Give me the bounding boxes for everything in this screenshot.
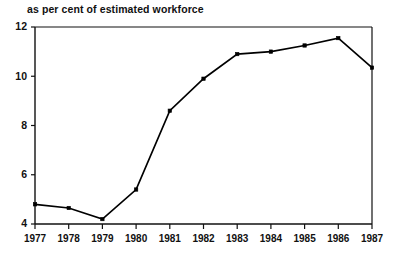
y-axis-labels: 4681012 [15, 20, 27, 229]
x-tick-label: 1983 [226, 233, 249, 244]
data-point [168, 109, 171, 112]
data-point [33, 203, 36, 206]
data-point [337, 36, 340, 39]
x-tick-label: 1979 [91, 233, 114, 244]
data-series-line [35, 38, 372, 219]
data-point [134, 188, 137, 191]
plot-frame [35, 27, 372, 224]
x-tick-label: 1982 [192, 233, 215, 244]
x-tick-label: 1978 [58, 233, 81, 244]
y-tick-label: 10 [15, 70, 27, 82]
y-tick-label: 8 [21, 119, 27, 131]
x-tick-label: 1980 [125, 233, 148, 244]
x-tick-label: 1984 [260, 233, 283, 244]
x-tick-label: 1986 [327, 233, 350, 244]
data-point [370, 66, 373, 69]
x-tick-label: 1981 [159, 233, 182, 244]
y-tick-label: 12 [15, 20, 27, 32]
data-point [67, 206, 70, 209]
x-tick-label: 1977 [24, 233, 47, 244]
data-point-markers [33, 36, 373, 220]
data-point [202, 77, 205, 80]
x-axis-labels: 1977197819791980198119821983198419851986… [24, 233, 384, 244]
data-point [303, 44, 306, 47]
x-tick-label: 1987 [361, 233, 384, 244]
line-chart-plot: 4681012 19771978197919801981198219831984… [0, 0, 396, 265]
chart-container: as per cent of estimated workforce 46810… [0, 0, 396, 265]
x-tick-label: 1985 [293, 233, 316, 244]
data-point [101, 217, 104, 220]
data-point [236, 52, 239, 55]
y-tick-label: 6 [21, 168, 27, 180]
x-axis-ticks [35, 224, 372, 229]
data-point [269, 50, 272, 53]
y-tick-label: 4 [21, 217, 27, 229]
